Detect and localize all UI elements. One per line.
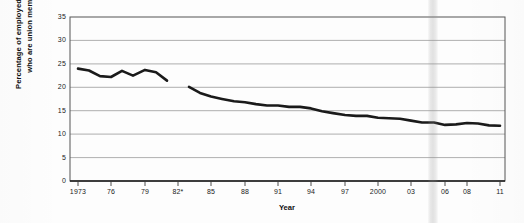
plot-frame — [70, 17, 505, 181]
chart-figure: Percentage of employed workers who are u… — [0, 0, 524, 223]
x-tick-label: 82* — [166, 188, 190, 195]
x-tick-label: 11 — [489, 188, 511, 195]
x-tick-label: 2000 — [363, 188, 393, 195]
x-tick-label: 85 — [200, 188, 222, 195]
x-tick-label: 76 — [100, 188, 122, 195]
x-axis-title: Year — [0, 203, 524, 212]
grid-lines — [70, 40, 505, 157]
series-line-1983-2011 — [189, 87, 500, 126]
x-tick-label: 06 — [434, 188, 456, 195]
x-tick-label: 1973 — [63, 188, 93, 195]
x-tick-label: 97 — [334, 188, 356, 195]
x-tick-label: 79 — [134, 188, 156, 195]
x-tick-label: 91 — [267, 188, 289, 195]
x-tick-marks — [78, 181, 500, 186]
series-line-1973-1981 — [78, 69, 167, 81]
x-tick-label: 03 — [400, 188, 422, 195]
x-tick-label: 88 — [234, 188, 256, 195]
x-axis-title-text: Year — [279, 203, 295, 212]
x-tick-label: 94 — [300, 188, 322, 195]
x-tick-label: 08 — [456, 188, 478, 195]
